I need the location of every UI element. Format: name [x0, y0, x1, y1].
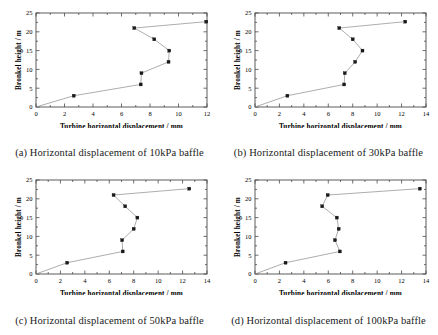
x-tick-label: 10: [374, 110, 381, 117]
x-tick-label: 6: [108, 277, 112, 284]
y-tick-label: 5: [29, 85, 32, 92]
caption-a: (a) Horizontal displacement of 10kPa baf…: [0, 147, 219, 158]
y-tick-label: 0: [29, 270, 32, 277]
figure-four-panel-displacement: 0246810120510152025Turbine horizontal di…: [0, 0, 438, 335]
data-point-marker: [361, 49, 364, 52]
data-point-marker: [337, 227, 340, 230]
y-tick-label: 15: [245, 47, 252, 54]
data-point-marker: [284, 261, 287, 264]
data-point-marker: [112, 194, 115, 197]
data-point-marker: [418, 187, 421, 190]
x-tick-label: 14: [204, 277, 211, 284]
y-tick-label: 25: [245, 176, 252, 183]
y-tick-label: 15: [26, 47, 33, 54]
y-tick-label: 10: [245, 66, 252, 73]
panel-a: 0246810120510152025Turbine horizontal di…: [0, 0, 219, 167]
data-point-marker: [343, 83, 346, 86]
x-tick-label: 2: [278, 110, 281, 117]
x-tick-label: 2: [278, 277, 281, 284]
x-tick-label: 4: [302, 277, 306, 284]
data-point-marker: [335, 216, 338, 219]
x-tick-label: 4: [302, 110, 306, 117]
x-tick-label: 6: [327, 277, 331, 284]
x-tick-label: 12: [398, 110, 405, 117]
series-line: [255, 22, 405, 107]
data-point-marker: [351, 38, 354, 41]
y-tick-label: 5: [248, 85, 251, 92]
x-tick-label: 0: [34, 277, 37, 284]
y-axis-title: Bronkel height / m: [234, 197, 242, 257]
y-tick-label: 25: [245, 9, 252, 16]
plot-area-a: 0246810120510152025Turbine horizontal di…: [0, 0, 219, 128]
x-tick-label: 12: [179, 277, 186, 284]
y-tick-label: 5: [29, 252, 32, 259]
x-tick-label: 10: [374, 277, 381, 284]
y-axis-title: Bronkel height / m: [15, 197, 23, 257]
y-axis-title: Bronkel height / m: [15, 30, 23, 90]
y-tick-label: 20: [245, 28, 252, 35]
x-tick-label: 12: [398, 277, 405, 284]
series-line: [36, 189, 189, 274]
data-point-marker: [140, 72, 143, 75]
y-tick-label: 20: [26, 28, 33, 35]
x-tick-label: 6: [327, 110, 331, 117]
x-tick-label: 0: [253, 277, 256, 284]
chart-c: 024681012140510152025Turbine horizontal …: [0, 167, 219, 295]
x-tick-label: 14: [423, 110, 430, 117]
x-tick-label: 10: [175, 110, 182, 117]
data-point-marker: [286, 94, 289, 97]
y-tick-label: 20: [26, 195, 33, 202]
y-axis-title: Bronkel height / m: [234, 30, 242, 90]
data-point-marker: [404, 20, 407, 23]
y-tick-label: 25: [26, 176, 33, 183]
data-point-marker: [132, 227, 135, 230]
panel-b: 024681012140510152025Turbine horizontal …: [219, 0, 438, 167]
caption-c: (c) Horizontal displacement of 50kPa baf…: [0, 315, 219, 326]
data-point-marker: [354, 60, 357, 63]
series-line: [255, 189, 420, 274]
y-tick-label: 0: [29, 103, 32, 110]
y-tick-label: 10: [26, 233, 33, 240]
y-tick-label: 0: [248, 103, 251, 110]
data-point-marker: [334, 239, 337, 242]
data-point-marker: [139, 83, 142, 86]
x-tick-label: 10: [155, 277, 162, 284]
data-point-marker: [326, 194, 329, 197]
data-point-marker: [121, 239, 124, 242]
x-tick-label: 12: [204, 110, 211, 117]
y-tick-label: 15: [26, 214, 33, 221]
y-tick-label: 25: [26, 9, 33, 16]
data-point-marker: [343, 72, 346, 75]
plot-area-b: 024681012140510152025Turbine horizontal …: [219, 0, 438, 128]
x-axis-title: Turbine horizontal displacement / mm: [279, 290, 402, 295]
caption-b: (b) Horizontal displacement of 30kPa baf…: [219, 147, 438, 158]
y-tick-label: 15: [245, 214, 252, 221]
x-axis-title: Turbine horizontal displacement / mm: [60, 123, 183, 128]
x-tick-label: 4: [83, 277, 87, 284]
x-tick-label: 0: [253, 110, 256, 117]
panel-d: 024681012140510152025Turbine horizontal …: [219, 167, 438, 335]
x-tick-label: 8: [351, 277, 354, 284]
series-line: [36, 22, 206, 107]
x-axis-title: Turbine horizontal displacement / mm: [279, 123, 402, 128]
y-tick-label: 20: [245, 195, 252, 202]
data-point-marker: [136, 216, 139, 219]
chart-d: 024681012140510152025Turbine horizontal …: [219, 167, 438, 295]
chart-a: 0246810120510152025Turbine horizontal di…: [0, 0, 219, 128]
data-point-marker: [153, 38, 156, 41]
data-point-marker: [72, 94, 75, 97]
x-tick-label: 0: [34, 110, 37, 117]
y-tick-label: 10: [245, 233, 252, 240]
x-tick-label: 8: [148, 110, 151, 117]
x-axis-title: Turbine horizontal displacement / mm: [60, 290, 183, 295]
data-point-marker: [66, 261, 69, 264]
x-tick-label: 8: [351, 110, 354, 117]
x-tick-label: 8: [132, 277, 135, 284]
x-tick-label: 2: [63, 110, 66, 117]
data-point-marker: [121, 250, 124, 253]
y-tick-label: 10: [26, 66, 33, 73]
plot-area-d: 024681012140510152025Turbine horizontal …: [219, 167, 438, 295]
plot-area-c: 024681012140510152025Turbine horizontal …: [0, 167, 219, 295]
plot-frame: [36, 13, 207, 107]
y-tick-label: 0: [248, 270, 251, 277]
